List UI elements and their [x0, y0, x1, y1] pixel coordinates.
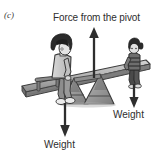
weight-right-label: Weight [113, 109, 144, 120]
weight-left-label: Weight [44, 139, 75, 150]
weight-left-arrow [60, 103, 70, 137]
small-child [124, 38, 143, 89]
force-from-pivot-label: Force from the pivot [53, 12, 140, 23]
seesaw-illustration [0, 0, 161, 162]
physics-figure-seesaw: (c) Force from the pivot Weight Weight [0, 0, 161, 162]
panel-label: (c) [4, 10, 14, 20]
